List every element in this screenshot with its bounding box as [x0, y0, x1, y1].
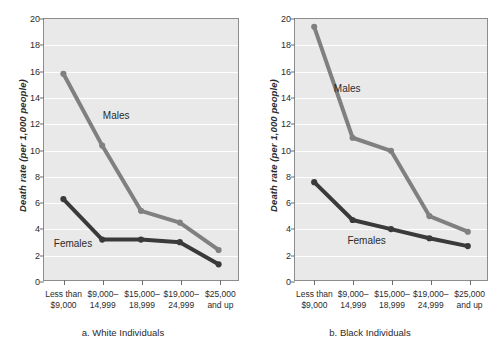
series-label-males-white: Males — [103, 110, 130, 121]
data-point-males — [350, 135, 356, 141]
y-axis-tick-label: 10 — [30, 146, 40, 155]
data-point-males — [216, 247, 222, 253]
series-label-males-black: Males — [334, 83, 361, 94]
data-point-females — [177, 239, 183, 245]
y-axis-tick-label: 14 — [281, 93, 291, 102]
data-point-males — [311, 24, 317, 30]
figure-root: Death rate (per 1,000 people) 0246810121… — [0, 0, 493, 348]
x-axis-tick-mark — [470, 280, 471, 285]
panel-caption-white: a. White Individuals — [0, 327, 246, 338]
series-line-males — [314, 27, 468, 232]
data-point-females — [60, 196, 66, 202]
y-axis-tick-label: 18 — [30, 41, 40, 50]
chart-panel-black: Death rate (per 1,000 people) 0246810121… — [247, 0, 493, 348]
data-point-males — [138, 208, 144, 214]
data-point-females — [216, 261, 222, 267]
x-axis-tick-mark — [181, 280, 182, 285]
y-axis-tick-label: 12 — [281, 120, 291, 129]
data-point-males — [99, 143, 105, 149]
y-axis-tick-label: 20 — [30, 15, 40, 24]
y-axis-tick-label: 16 — [281, 67, 291, 76]
series-label-females-white: Females — [54, 238, 92, 249]
x-axis-tick-mark — [431, 280, 432, 285]
x-axis-tick-mark — [392, 280, 393, 285]
x-axis-tick-mark — [103, 280, 104, 285]
y-axis-tick-label: 12 — [30, 120, 40, 129]
x-axis-tick-mark — [314, 280, 315, 285]
plot-area-white: 02468101214161820 Less than $9,000$9,000… — [43, 18, 239, 281]
data-point-females — [426, 235, 432, 241]
y-axis-tick-label: 20 — [281, 15, 291, 24]
y-axis-tick-mark — [40, 282, 44, 283]
x-axis-tick-label: $25,000 and up — [440, 289, 493, 311]
y-axis-tick-label: 14 — [30, 93, 40, 102]
series-lines-black — [295, 19, 487, 280]
data-point-males — [60, 71, 66, 77]
y-axis-tick-label: 10 — [281, 146, 291, 155]
y-axis-tick-label: 18 — [281, 41, 291, 50]
series-label-females-black: Females — [347, 235, 385, 246]
chart-panel-white: Death rate (per 1,000 people) 0246810121… — [0, 0, 246, 348]
x-axis-tick-mark — [353, 280, 354, 285]
data-point-females — [138, 236, 144, 242]
data-point-males — [426, 213, 432, 219]
data-point-females — [388, 226, 394, 232]
y-axis-tick-mark — [291, 282, 295, 283]
y-axis-tick-label: 16 — [30, 67, 40, 76]
plot-area-black: 02468101214161820 Less than $9,000$9,000… — [294, 18, 488, 281]
data-point-females — [99, 236, 105, 242]
x-axis-tick-mark — [142, 280, 143, 285]
panel-caption-black: b. Black Individuals — [247, 327, 493, 338]
data-point-males — [177, 220, 183, 226]
y-axis-title: Death rate (per 1,000 people) — [17, 51, 28, 241]
data-point-females — [311, 179, 317, 185]
x-axis-tick-mark — [220, 280, 221, 285]
x-axis-tick-mark — [64, 280, 65, 285]
data-point-females — [465, 243, 471, 249]
x-axis-tick-label: $25,000 and up — [190, 289, 250, 311]
y-axis-title: Death rate (per 1,000 people) — [268, 51, 279, 241]
data-point-males — [465, 229, 471, 235]
data-point-females — [350, 217, 356, 223]
data-point-males — [388, 148, 394, 154]
series-line-females — [314, 182, 468, 246]
